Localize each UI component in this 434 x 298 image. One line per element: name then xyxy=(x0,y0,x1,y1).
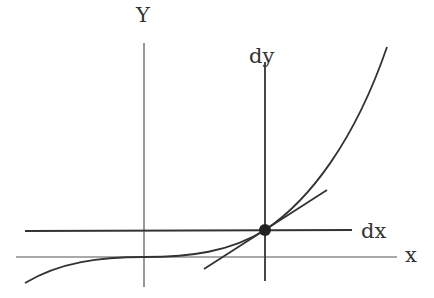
x-axis-label: x xyxy=(405,243,417,267)
dx-line xyxy=(25,230,352,231)
differential-diagram: Y dy dx x xyxy=(0,0,434,298)
tangent-point xyxy=(259,224,271,236)
cubic-curve xyxy=(25,47,387,283)
y-axis-label: Y xyxy=(135,3,151,27)
dx-label: dx xyxy=(361,219,386,243)
dy-label: dy xyxy=(249,44,274,68)
